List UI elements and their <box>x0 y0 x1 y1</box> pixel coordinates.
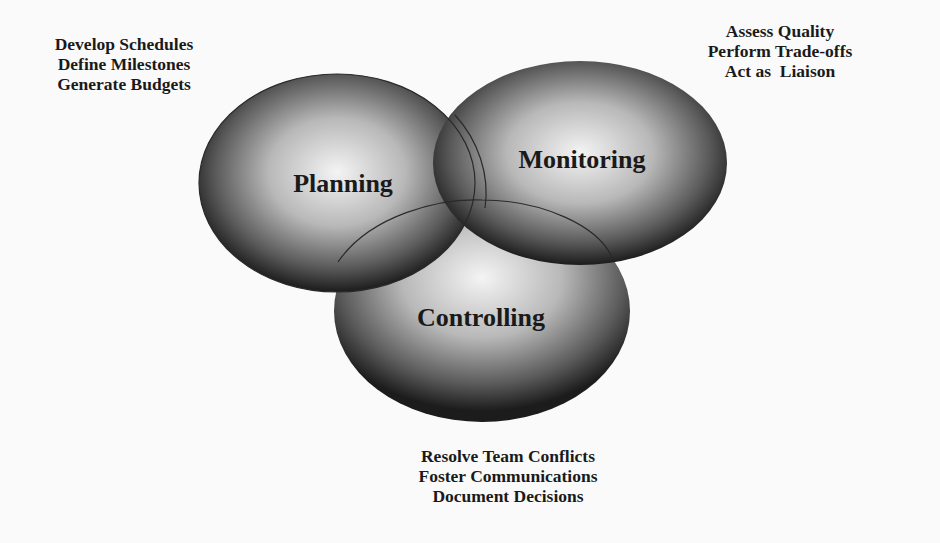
note: Document Decisions <box>378 486 638 506</box>
note: Perform Trade-offs <box>682 41 878 61</box>
note: Act as Liaison <box>682 61 878 81</box>
note: Assess Quality <box>682 21 878 41</box>
monitoring-label: Monitoring <box>518 145 645 174</box>
controlling-label: Controlling <box>417 303 545 332</box>
note: Define Milestones <box>48 54 200 74</box>
monitoring-notes: Assess Quality Perform Trade-offs Act as… <box>682 21 878 81</box>
controlling-notes: Resolve Team Conflicts Foster Communicat… <box>378 446 638 506</box>
note: Generate Budgets <box>48 74 200 94</box>
note: Develop Schedules <box>48 34 200 54</box>
note: Resolve Team Conflicts <box>378 446 638 466</box>
note: Foster Communications <box>378 466 638 486</box>
planning-label: Planning <box>293 169 393 198</box>
planning-notes: Develop Schedules Define Milestones Gene… <box>48 34 200 94</box>
